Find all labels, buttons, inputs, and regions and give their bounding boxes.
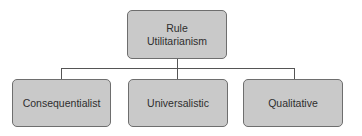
child-node-universalistic: Universalistic	[128, 79, 228, 127]
connector-drop-universalistic	[177, 68, 178, 79]
child-node-label: Universalistic	[147, 97, 209, 110]
child-node-qualitative: Qualitative	[243, 79, 343, 127]
child-node-consequentialist: Consequentialist	[12, 79, 111, 127]
root-node-label: Rule Utilitarianism	[147, 22, 207, 48]
connector-horizontal-bar	[61, 68, 295, 69]
connector-drop-qualitative	[294, 68, 295, 79]
connector-drop-consequentialist	[61, 68, 62, 79]
child-node-label: Consequentialist	[23, 97, 101, 110]
child-node-label: Qualitative	[268, 97, 318, 110]
root-node-rule-utilitarianism: Rule Utilitarianism	[127, 10, 227, 59]
connector-root-stem	[177, 58, 178, 68]
